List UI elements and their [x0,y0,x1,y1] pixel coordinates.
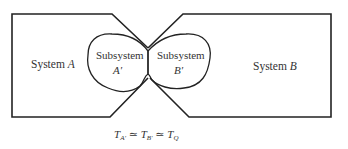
subsystem-a-label: Subsystem [96,49,144,61]
subsystem-b-var: B′ [174,64,184,76]
temperature-equation: TA′ ≃ TB′ ≃ TQ [114,128,179,142]
system-b-label: System B [253,60,297,73]
subsystem-a-var: A′ [112,64,123,76]
subsystem-b-label: Subsystem [157,49,205,61]
thermal-contact-diagram: System A Subsystem A′ Subsystem B′ Syste… [0,0,348,149]
subsystem-a-blob [88,34,148,92]
system-a-label: System A [31,58,76,71]
subsystem-b-blob [148,34,210,89]
